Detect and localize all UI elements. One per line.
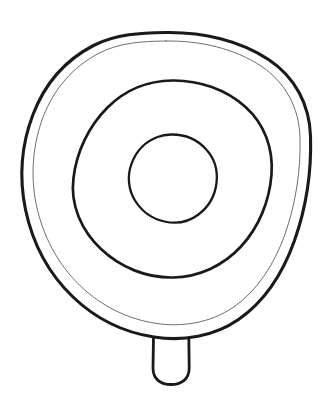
line-art-illustration [0, 0, 332, 409]
handle-stem [153, 336, 189, 385]
drawing-canvas [0, 0, 332, 409]
